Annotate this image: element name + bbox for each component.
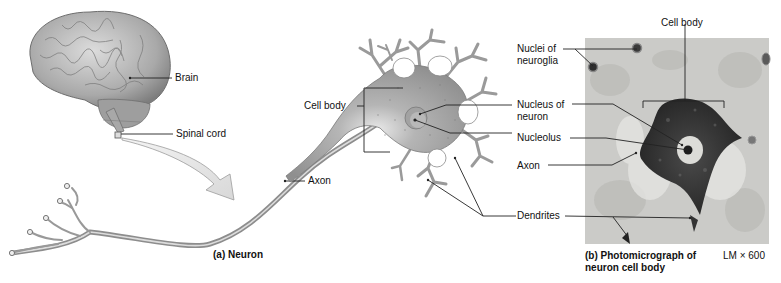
label-dendrites: Dendrites: [517, 210, 560, 222]
caption-panel-a: (a) Neuron: [213, 249, 263, 261]
brain-illustration: [30, 11, 170, 138]
label-spinal-cord: Spinal cord: [176, 128, 226, 140]
label-nuclei-of-neuroglia: Nuclei ofneuroglia: [517, 43, 558, 67]
label-nucleolus: Nucleolus: [517, 132, 561, 144]
arrow-shape: [122, 138, 234, 200]
label-neuroglia-line2: neuroglia: [517, 55, 558, 66]
label-nucleus-of-neuron: Nucleus ofneuron: [517, 99, 564, 123]
label-nucleus-line1: Nucleus of: [517, 99, 564, 110]
label-axon: Axon: [308, 175, 331, 187]
label-cell-body-b: Cell body: [661, 17, 703, 29]
label-cell-body: Cell body: [304, 100, 346, 112]
caption-b-line1: (b) Photomicrograph of: [585, 250, 696, 261]
photomicrograph: [585, 38, 770, 244]
label-axon-b: Axon: [517, 160, 540, 172]
caption-panel-b: (b) Photomicrograph ofneuron cell body: [585, 250, 696, 274]
caption-b-line2: neuron cell body: [585, 262, 665, 273]
neuron-cell-body: [286, 30, 496, 196]
label-nucleus-line2: neuron: [517, 111, 548, 122]
label-neuroglia-line1: Nuclei of: [517, 43, 556, 54]
label-brain: Brain: [175, 72, 198, 84]
neuron-illustration: [0, 0, 781, 283]
magnification-label: LM × 600: [723, 250, 765, 262]
